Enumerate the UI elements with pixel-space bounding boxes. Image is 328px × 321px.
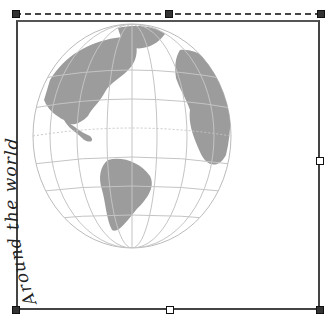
curved-text: Around the world — [0, 137, 41, 311]
handle-middle-right[interactable] — [316, 157, 324, 165]
handle-top-left[interactable] — [12, 10, 20, 18]
handle-bottom-center[interactable] — [166, 306, 174, 314]
handle-top-right[interactable] — [317, 10, 325, 18]
drawing-canvas: Around the world — [0, 0, 328, 321]
handle-bottom-left[interactable] — [12, 306, 20, 314]
handle-top-center[interactable] — [165, 10, 173, 18]
svg-text:Around the world: Around the world — [0, 137, 41, 311]
curved-text-art[interactable]: Around the world — [0, 0, 328, 321]
handle-bottom-right[interactable] — [316, 306, 324, 314]
